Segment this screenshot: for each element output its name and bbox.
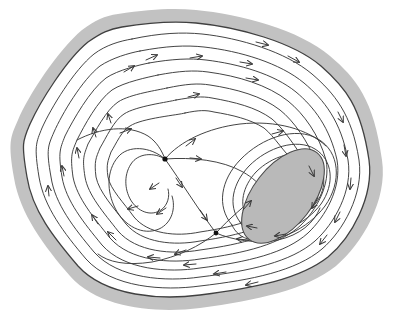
domain-boundary-band <box>11 9 383 310</box>
figure-canvas <box>0 0 401 320</box>
saddle-point-lower <box>214 231 219 236</box>
streamline-diagram <box>0 0 401 320</box>
saddle-point-upper <box>162 156 167 161</box>
